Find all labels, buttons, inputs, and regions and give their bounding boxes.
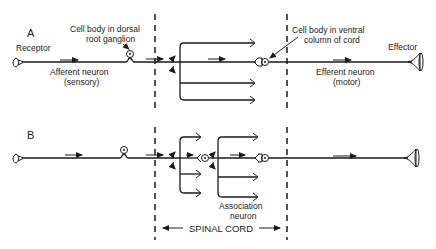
efferent-label-line1: Efferent neuron bbox=[316, 67, 375, 77]
reflex-arc-diagram: A Receptor Cell body in dorsal root gang… bbox=[0, 0, 436, 249]
collateral-branch bbox=[180, 158, 200, 193]
dorsal-ganglion-label-line1: Cell body in dorsal bbox=[70, 24, 140, 34]
branch-arrow-down-icon bbox=[173, 66, 175, 73]
ventral-motor-cell-body-icon bbox=[255, 154, 269, 162]
branch-arrow-down-icon bbox=[173, 162, 175, 169]
ventral-cell-body-label-line1: Cell body in ventral bbox=[292, 25, 364, 35]
pointer-arrow-icon bbox=[123, 44, 129, 49]
panel-a: A Receptor Cell body in dorsal root gang… bbox=[13, 24, 423, 104]
association-neuron-cell-body-icon bbox=[197, 154, 209, 162]
panel-a-letter: A bbox=[27, 27, 35, 39]
ventral-motor-cell-body-icon bbox=[258, 58, 269, 66]
receptor-icon bbox=[13, 58, 24, 67]
branch-arrow-down-icon bbox=[213, 162, 215, 169]
association-neuron-label-line1: Association bbox=[219, 201, 263, 211]
panel-b-letter: B bbox=[27, 129, 34, 141]
efferent-label-line2: (motor) bbox=[333, 77, 361, 87]
ventral-cell-body-label-line2: column of cord bbox=[304, 35, 360, 45]
association-neuron-label-line2: neuron bbox=[230, 211, 257, 221]
spinal-cord-span: SPINAL CORD bbox=[163, 223, 280, 234]
receptor-icon bbox=[13, 154, 24, 163]
effector-label: Effector bbox=[388, 42, 417, 52]
afferent-label-line2: (sensory) bbox=[64, 77, 100, 87]
collateral-branch bbox=[180, 62, 254, 100]
dorsal-ganglion-label-line2: root ganglion bbox=[86, 34, 135, 44]
receptor-label: Receptor bbox=[16, 43, 51, 53]
panel-b: B bbox=[13, 129, 419, 221]
pointer-arrow-icon bbox=[270, 37, 298, 58]
spinal-cord-label: SPINAL CORD bbox=[189, 223, 253, 234]
afferent-label-line1: Afferent neuron bbox=[50, 67, 109, 77]
